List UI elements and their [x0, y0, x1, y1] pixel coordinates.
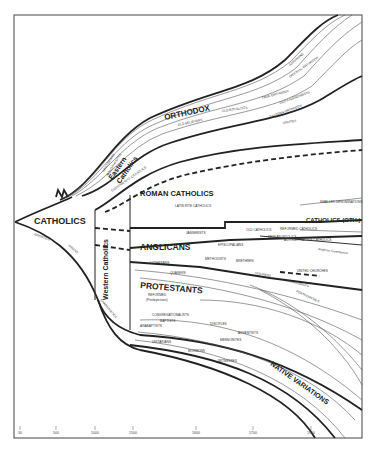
- svg-text:1000: 1000: [91, 431, 99, 435]
- svg-text:(Presbyterians): (Presbyterians): [146, 298, 168, 302]
- label-catholics: CATHOLICS: [34, 216, 86, 226]
- label-native-variations: NATIVE VARIATIONS: [269, 360, 330, 406]
- svg-text:UNITARIANS: UNITARIANS: [152, 340, 171, 344]
- svg-text:ADVENTISTS: ADVENTISTS: [238, 331, 258, 335]
- svg-text:REFORMED: REFORMED: [148, 293, 167, 297]
- label-western-catholics: Western Catholics: [102, 239, 109, 300]
- svg-text:PENTECOSTALS: PENTECOSTALS: [296, 289, 321, 303]
- svg-text:MENNONITES: MENNONITES: [220, 338, 241, 342]
- svg-text:UNIATES: UNIATES: [282, 119, 296, 125]
- svg-text:1500: 1500: [129, 431, 137, 435]
- svg-text:REFORMED CATHOLICS: REFORMED CATHOLICS: [280, 227, 317, 231]
- svg-text:SMALLER DENOMINATIONS: SMALLER DENOMINATIONS: [320, 200, 362, 204]
- svg-text:BAPTISTS: BAPTISTS: [160, 319, 175, 323]
- svg-text:EASTERN ORTHODOX: EASTERN ORTHODOX: [269, 103, 303, 119]
- svg-text:JANSENISTS: JANSENISTS: [186, 231, 206, 235]
- time-axis: 30 500 1000 1500 1600 1700 1900: [18, 426, 315, 435]
- svg-text:DISCIPLES: DISCIPLES: [210, 322, 227, 326]
- svg-text:1700: 1700: [249, 431, 257, 435]
- svg-text:500: 500: [53, 431, 59, 435]
- svg-text:30: 30: [18, 431, 22, 435]
- label-roman-catholics: ROMAN CATHOLICS: [140, 189, 214, 198]
- svg-text:EPISCOPALIANS: EPISCOPALIANS: [218, 243, 243, 247]
- svg-text:AUTOCEPHALOUS CATHOLICS: AUTOCEPHALOUS CATHOLICS: [284, 238, 331, 242]
- denominations-diagram: CATHOLICS ORTHODOX Eastern Catholics Wes…: [0, 0, 374, 452]
- svg-text:LATIN-RITE CATHOLICS: LATIN-RITE CATHOLICS: [175, 204, 211, 208]
- svg-text:Anglican Communion: Anglican Communion: [318, 247, 349, 255]
- svg-text:QUAKERS: QUAKERS: [170, 271, 186, 275]
- svg-text:METHODISTS: METHODISTS: [205, 257, 226, 261]
- svg-text:OLD CATHOLICS: OLD CATHOLICS: [246, 228, 271, 232]
- svg-text:SALVATIONISTS: SALVATIONISTS: [285, 278, 309, 288]
- origin-lower-branch: [15, 222, 140, 350]
- svg-text:LUTHERANS: LUTHERANS: [150, 261, 169, 265]
- label-orthodox: ORTHODOX: [164, 103, 212, 122]
- svg-text:WITNESSES: WITNESSES: [218, 359, 237, 363]
- svg-text:CONGREGATIONALISTS: CONGREGATIONALISTS: [152, 313, 189, 317]
- svg-text:1900: 1900: [307, 431, 315, 435]
- svg-text:ARIANS: ARIANS: [67, 244, 79, 255]
- svg-text:1600: 1600: [192, 431, 200, 435]
- svg-text:ANABAPTISTS: ANABAPTISTS: [140, 324, 162, 328]
- svg-text:MORMONS: MORMONS: [188, 349, 205, 353]
- svg-text:BRETHREN: BRETHREN: [236, 259, 254, 263]
- label-anglicans: ANGLICANS: [140, 242, 191, 252]
- svg-text:UNITED CHURCHES: UNITED CHURCHES: [297, 269, 328, 273]
- label-catholics-other: CATHOLICS (OTH.): [306, 217, 361, 223]
